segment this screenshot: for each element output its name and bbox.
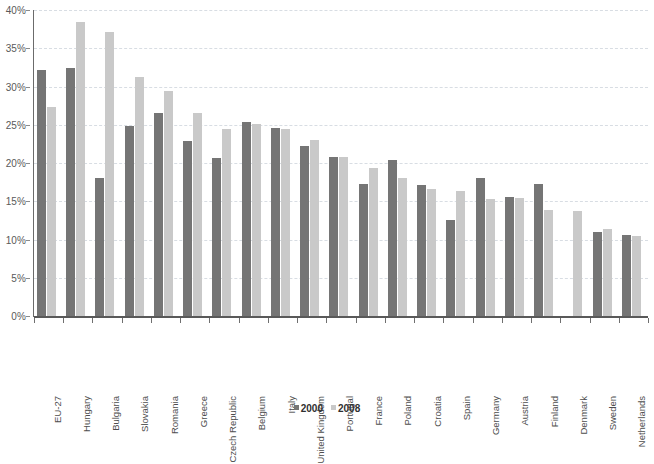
- bar-group: [297, 10, 326, 316]
- bar-2000: [300, 146, 309, 316]
- bar-2008: [222, 129, 231, 316]
- x-axis-labels: EU-27HungaryBulgariaSlovakiaRomaniaGreec…: [34, 322, 648, 398]
- bar-group: [590, 10, 619, 316]
- y-axis-tick-mark: [26, 48, 30, 49]
- y-axis-tick-label: 15%: [6, 196, 26, 207]
- bar-2000: [271, 128, 280, 316]
- bar-group: [92, 10, 121, 316]
- bars-layer: [34, 10, 648, 316]
- bar-group: [560, 10, 589, 316]
- bar-2000: [505, 197, 514, 316]
- bar-2008: [603, 229, 612, 316]
- y-axis-tick-mark: [26, 316, 30, 317]
- bar-group: [34, 10, 63, 316]
- bar-2008: [281, 129, 290, 316]
- y-axis-tick-mark: [26, 163, 30, 164]
- bar-2008: [632, 236, 641, 316]
- y-axis-tick-mark: [26, 240, 30, 241]
- bar-2000: [125, 126, 134, 316]
- bar-2000: [183, 141, 192, 316]
- bar-2000: [593, 232, 602, 316]
- chart-legend: 20002008: [0, 402, 654, 414]
- bar-2000: [476, 178, 485, 316]
- bar-2000: [66, 68, 75, 316]
- y-axis: 0%5%10%15%20%25%30%35%40%: [0, 10, 30, 316]
- bar-2000: [417, 185, 426, 316]
- bar-2008: [486, 199, 495, 316]
- y-axis-tick-label: 10%: [6, 234, 26, 245]
- bar-group: [151, 10, 180, 316]
- bar-2008: [252, 124, 261, 316]
- bar-2008: [515, 198, 524, 316]
- legend-swatch-icon: [331, 405, 336, 410]
- bar-2008: [456, 191, 465, 316]
- y-axis-tick-label: 25%: [6, 119, 26, 130]
- bar-group: [356, 10, 385, 316]
- legend-item[interactable]: 2000: [294, 402, 323, 414]
- y-axis-tick-mark: [26, 278, 30, 279]
- legend-label: 2008: [338, 403, 360, 414]
- bar-group: [473, 10, 502, 316]
- bar-2008: [427, 189, 436, 316]
- bar-2008: [398, 178, 407, 316]
- bar-group: [239, 10, 268, 316]
- bar-2000: [359, 184, 368, 316]
- x-axis-tick-mark: [648, 318, 649, 323]
- bar-group: [268, 10, 297, 316]
- bar-group: [122, 10, 151, 316]
- bar-2000: [154, 113, 163, 316]
- legend-item[interactable]: 2008: [331, 402, 360, 414]
- bar-2000: [388, 160, 397, 316]
- bar-2008: [135, 77, 144, 316]
- y-axis-tick-label: 0%: [11, 311, 26, 322]
- bar-2008: [193, 113, 202, 316]
- y-axis-tick-label: 40%: [6, 5, 26, 16]
- bar-group: [63, 10, 92, 316]
- bar-2008: [339, 157, 348, 316]
- bar-2000: [95, 178, 104, 316]
- bar-2000: [242, 122, 251, 316]
- y-axis-tick-label: 20%: [6, 158, 26, 169]
- bar-2008: [544, 210, 553, 316]
- bar-group: [531, 10, 560, 316]
- y-axis-tick-label: 30%: [6, 81, 26, 92]
- y-axis-tick-mark: [26, 201, 30, 202]
- bar-group: [414, 10, 443, 316]
- legend-label: 2000: [301, 403, 323, 414]
- plot-area: [34, 10, 648, 316]
- bar-group: [385, 10, 414, 316]
- bar-2008: [164, 91, 173, 316]
- bar-2008: [310, 140, 319, 316]
- bar-2000: [329, 157, 338, 316]
- y-axis-tick-mark: [26, 10, 30, 11]
- bar-2000: [446, 220, 455, 316]
- bar-group: [443, 10, 472, 316]
- y-axis-tick-mark: [26, 87, 30, 88]
- y-axis-tick-mark: [26, 125, 30, 126]
- bar-2008: [47, 107, 56, 316]
- bar-2008: [573, 211, 582, 316]
- bar-2008: [369, 168, 378, 316]
- bar-group: [619, 10, 648, 316]
- y-axis-tick-label: 5%: [11, 272, 26, 283]
- bar-2008: [105, 32, 114, 316]
- bar-2000: [212, 158, 221, 316]
- y-axis-tick-label: 35%: [6, 43, 26, 54]
- bar-2000: [534, 184, 543, 316]
- bar-group: [326, 10, 355, 316]
- bar-2008: [76, 22, 85, 316]
- bar-group: [180, 10, 209, 316]
- legend-swatch-icon: [294, 405, 299, 410]
- bar-2000: [622, 235, 631, 316]
- bar-group: [502, 10, 531, 316]
- bar-2000: [37, 70, 46, 316]
- bar-group: [209, 10, 238, 316]
